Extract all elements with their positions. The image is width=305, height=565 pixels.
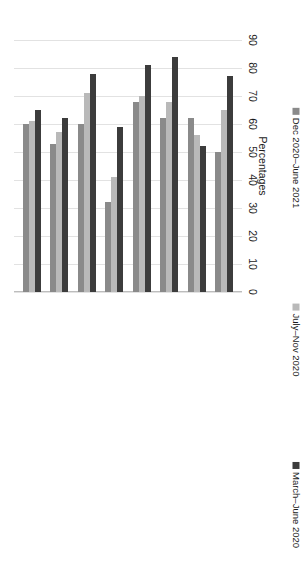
bar-group (128, 40, 156, 292)
bar (62, 118, 68, 292)
bar-group (211, 40, 239, 292)
legend-label: July–Nov 2020 (291, 314, 302, 377)
tick-label-20: 20 (247, 230, 259, 242)
tick-label-10: 10 (247, 258, 259, 270)
bar (200, 146, 206, 292)
legend-swatch-march-june-2020 (293, 462, 300, 469)
legend-swatch-july-nov-2020 (293, 304, 300, 311)
bar-group (156, 40, 184, 292)
legend-label: March–June 2020 (291, 472, 302, 548)
tick-label-90: 90 (247, 34, 259, 46)
bar-groups (14, 40, 242, 292)
bar-group (18, 40, 46, 292)
chart-canvas: 0102030405060708090 Percentages Dec 2020… (0, 0, 305, 565)
bar-group (183, 40, 211, 292)
plot-area (14, 40, 242, 292)
bar-group (46, 40, 74, 292)
tick-label-70: 70 (247, 90, 259, 102)
bar-group (73, 40, 101, 292)
value-axis-title: Percentages (257, 137, 269, 196)
chart-figure: 0102030405060708090 Percentages Dec 2020… (0, 0, 305, 565)
bar (90, 74, 96, 292)
tick-label-80: 80 (247, 62, 259, 74)
bar (172, 57, 178, 292)
tick-label-60: 60 (247, 118, 259, 130)
tick-label-30: 30 (247, 202, 259, 214)
legend-label: Dec 2020–June 2021 (291, 118, 302, 208)
legend-item[interactable]: July–Nov 2020 (291, 304, 302, 377)
bar (35, 110, 41, 292)
tick-label-0: 0 (247, 289, 259, 295)
plot-inner (14, 40, 242, 292)
bar-group (101, 40, 129, 292)
gridline-0 (14, 292, 242, 293)
bar (145, 65, 151, 292)
bar (117, 127, 123, 292)
bar (227, 76, 233, 292)
legend-item[interactable]: March–June 2020 (291, 462, 302, 548)
legend-swatch-dec-2020-june-2021 (293, 108, 300, 115)
chart-legend: Dec 2020–June 2021July–Nov 2020March–Jun… (287, 40, 305, 517)
legend-item[interactable]: Dec 2020–June 2021 (291, 108, 302, 208)
